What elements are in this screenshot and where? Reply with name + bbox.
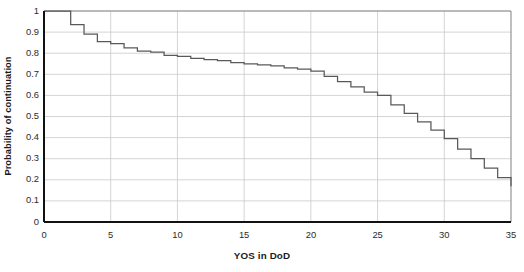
y-tick-label: 0.6 xyxy=(26,89,39,100)
grid-lines-horizontal xyxy=(44,11,511,201)
y-tick-label: 0.9 xyxy=(26,26,39,37)
y-tick-label: 0.2 xyxy=(26,173,39,184)
series-line-0 xyxy=(44,11,511,186)
x-tick-label: 25 xyxy=(358,229,398,240)
x-tick-label: 20 xyxy=(291,229,331,240)
y-axis-title: Probability of continuation xyxy=(0,0,17,232)
x-tick-label: 35 xyxy=(491,229,524,240)
x-tick-label: 10 xyxy=(157,229,197,240)
x-tick-label: 0 xyxy=(24,229,64,240)
y-tick-label: 0.5 xyxy=(26,110,39,121)
x-tick-label: 30 xyxy=(424,229,464,240)
y-tick-label: 0 xyxy=(34,216,39,227)
y-tick-label: 0.1 xyxy=(26,194,39,205)
x-tick-label: 5 xyxy=(91,229,131,240)
chart-figure: Probability of continuation YOS in DoD 0… xyxy=(0,0,524,272)
y-axis-title-text: Probability of continuation xyxy=(3,56,13,175)
y-tick-label: 0.8 xyxy=(26,47,39,58)
y-tick-label: 1 xyxy=(34,5,39,16)
y-tick-label: 0.4 xyxy=(26,131,39,142)
y-tick-label: 0.7 xyxy=(26,68,39,79)
x-tick-label: 15 xyxy=(224,229,264,240)
data-series-step-line xyxy=(44,11,511,186)
y-tick-label: 0.3 xyxy=(26,152,39,163)
x-axis-title: YOS in DoD xyxy=(0,250,524,261)
